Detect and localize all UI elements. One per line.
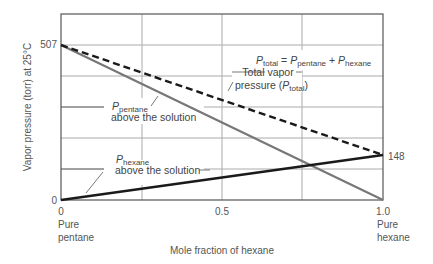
y-tick-507: 507	[40, 39, 57, 50]
x-sub-pure-1: Pure	[58, 219, 80, 230]
x-sub-hexane: hexane	[377, 232, 410, 243]
x-sub-pentane: pentane	[58, 232, 95, 243]
x-axis-title: Mole fraction of hexane	[170, 245, 274, 256]
x-tick-0: 0	[58, 206, 64, 217]
y-axis-title: Vapor pressure (torr) at 25°C	[22, 43, 33, 171]
y-tick-0: 0	[51, 195, 57, 206]
p-pentane-desc: above the solution	[111, 111, 196, 123]
x-tick-10: 1.0	[376, 206, 390, 217]
x-sub-pure-2: Pure	[377, 219, 399, 230]
total-vapor-label: Total vapor	[242, 66, 294, 78]
right-tick-148: 148	[388, 151, 405, 162]
p-hexane-desc: above the solution	[115, 164, 200, 176]
vapor-pressure-chart: 507 0 148 0 Pure pentane 0.5 1.0 Pure he…	[0, 0, 433, 264]
x-tick-05: 0.5	[215, 206, 229, 217]
